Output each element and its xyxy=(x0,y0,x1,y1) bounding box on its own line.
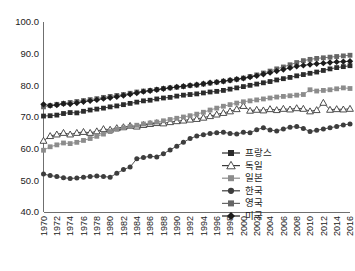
data-marker xyxy=(128,165,133,170)
data-marker xyxy=(54,142,59,147)
data-marker xyxy=(268,127,273,132)
data-marker xyxy=(88,136,93,141)
data-marker xyxy=(201,91,206,96)
data-marker xyxy=(41,148,46,153)
data-marker xyxy=(148,121,153,126)
data-marker xyxy=(54,113,59,118)
x-tick-label: 2012 xyxy=(319,216,329,236)
data-marker xyxy=(61,141,66,146)
legend-label: 미국 xyxy=(245,210,263,221)
data-marker xyxy=(281,76,286,81)
data-marker xyxy=(334,54,339,59)
data-marker xyxy=(48,113,53,118)
data-marker xyxy=(274,95,279,100)
data-marker xyxy=(188,92,193,97)
x-tick-label: 2016 xyxy=(345,216,355,236)
data-marker xyxy=(128,101,133,106)
data-marker xyxy=(314,128,319,133)
data-marker xyxy=(307,61,313,67)
data-marker xyxy=(233,106,240,112)
legend-label: 영국 xyxy=(245,197,263,208)
legend-item-일본[interactable]: 일본 xyxy=(222,172,263,183)
x-tick-label: 1988 xyxy=(159,216,169,236)
data-marker xyxy=(261,125,266,130)
y-tick-label: 60.0 xyxy=(21,143,40,154)
data-marker xyxy=(194,134,199,139)
data-marker xyxy=(154,97,159,102)
y-tick-label: 40.0 xyxy=(21,206,40,217)
data-marker xyxy=(114,104,119,109)
legend-item-프랑스[interactable]: 프랑스 xyxy=(222,147,272,158)
data-marker xyxy=(281,127,286,132)
y-tick-label: 100.0 xyxy=(15,16,39,27)
data-marker xyxy=(221,88,226,93)
legend-item-영국[interactable]: 영국 xyxy=(222,197,263,208)
data-marker xyxy=(181,115,186,120)
data-marker xyxy=(174,144,179,149)
x-tick-label: 2008 xyxy=(292,216,302,236)
data-marker xyxy=(300,62,306,68)
data-marker xyxy=(321,55,326,60)
data-marker xyxy=(141,155,146,160)
chart-container: 40.050.060.070.080.090.0100.0 1970197219… xyxy=(0,0,355,271)
data-marker xyxy=(94,134,99,139)
legend-item-한국[interactable]: 한국 xyxy=(222,185,263,196)
data-marker xyxy=(321,88,326,93)
data-marker xyxy=(208,90,213,95)
data-marker xyxy=(201,132,206,137)
data-marker xyxy=(54,174,59,179)
data-marker xyxy=(308,87,313,92)
data-marker xyxy=(241,130,246,135)
data-marker xyxy=(234,101,239,106)
data-marker xyxy=(328,87,333,92)
data-marker xyxy=(101,106,106,111)
data-marker xyxy=(228,188,234,194)
data-marker xyxy=(288,93,293,98)
legend-item-독일[interactable]: 독일 xyxy=(222,160,263,171)
data-marker xyxy=(268,79,273,84)
data-marker xyxy=(261,97,266,102)
data-marker xyxy=(308,57,313,62)
data-marker xyxy=(161,151,166,156)
data-marker xyxy=(293,105,300,111)
data-marker xyxy=(121,167,126,172)
x-tick-labels: 1970197219741976197819801982198419861988… xyxy=(39,216,355,236)
data-marker xyxy=(347,105,354,111)
data-marker xyxy=(101,132,106,137)
data-marker xyxy=(221,130,226,135)
data-marker xyxy=(294,124,299,129)
x-tick-label: 1992 xyxy=(185,216,195,236)
data-marker xyxy=(254,127,259,132)
data-marker xyxy=(154,120,159,125)
data-marker xyxy=(108,104,113,109)
data-marker xyxy=(168,147,173,152)
data-marker xyxy=(327,59,333,65)
data-marker xyxy=(341,64,346,69)
chart-legend: 프랑스독일일본한국영국미국 xyxy=(222,147,272,221)
data-marker xyxy=(348,53,353,58)
data-marker xyxy=(321,127,326,132)
data-marker xyxy=(181,93,186,98)
x-tick-label: 1980 xyxy=(105,216,115,236)
data-marker xyxy=(108,175,113,180)
x-tick-label: 1984 xyxy=(132,216,142,236)
data-marker xyxy=(41,114,46,119)
data-marker xyxy=(253,106,260,112)
data-marker xyxy=(228,102,233,107)
data-marker xyxy=(308,129,313,134)
data-marker xyxy=(194,112,199,117)
data-marker xyxy=(241,99,246,104)
data-marker xyxy=(241,84,246,89)
data-marker xyxy=(74,140,79,145)
x-tick-label: 1970 xyxy=(39,216,49,236)
data-marker xyxy=(328,125,333,130)
data-marker xyxy=(201,110,206,115)
data-marker xyxy=(341,122,346,127)
data-marker xyxy=(320,99,327,105)
data-marker xyxy=(267,106,274,112)
data-marker xyxy=(74,110,79,115)
x-tick-label: 2014 xyxy=(332,216,342,236)
data-marker xyxy=(208,108,213,113)
y-tick-label: 50.0 xyxy=(21,175,40,186)
data-marker xyxy=(228,150,234,156)
